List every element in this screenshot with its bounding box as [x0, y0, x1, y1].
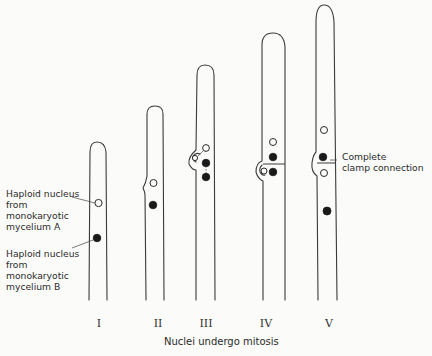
stage-label-4: IV: [251, 317, 281, 330]
stage-3-hypha: [189, 65, 215, 300]
nucleus-a-dividing: [203, 145, 210, 152]
nucleus-b-1: [269, 153, 277, 161]
label-clamp-connection: Complete clamp connection: [342, 151, 424, 173]
stage-1-hypha: [89, 142, 107, 300]
stage-label-3: III: [191, 317, 221, 330]
stage-label-1: I: [84, 317, 114, 330]
label-nucleus-a: Haploid nucleus from monokaryotic myceli…: [6, 188, 79, 232]
nucleus-b: [149, 201, 157, 209]
stage-label-5: V: [314, 317, 344, 330]
nucleus-b-2: [202, 173, 210, 181]
hypha-wall: [189, 65, 215, 300]
stage-5-hypha: [312, 5, 337, 300]
stage-label-2: II: [143, 317, 173, 330]
nucleus-a: [321, 127, 328, 134]
nucleus-a: [95, 199, 102, 206]
nucleus-a-lower: [321, 170, 328, 177]
stage-2-hypha: [143, 106, 164, 300]
nucleus-a: [270, 139, 277, 146]
nucleus-b-lower: [323, 207, 331, 215]
hypha-wall: [89, 142, 107, 300]
nucleus-b-2: [269, 168, 277, 176]
nucleus-a: [150, 180, 157, 187]
hypha-wall: [312, 5, 337, 300]
nucleus-b: [319, 153, 327, 161]
stage-4-hypha: [256, 33, 285, 300]
nucleus-in-clamp: [261, 168, 267, 174]
clamp-connection-diagram: [0, 0, 432, 356]
caption: Nuclei undergo mitosis: [164, 336, 279, 347]
label-nucleus-b: Haploid nucleus from monokaryotic myceli…: [6, 248, 79, 292]
nucleus-b: [93, 234, 101, 242]
nucleus-in-clamp: [192, 155, 197, 160]
nucleus-b-1: [202, 159, 210, 167]
